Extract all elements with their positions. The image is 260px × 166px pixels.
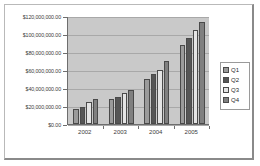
chart-frame: $0.00$20,000,000.00$40,000,000.00$60,000… [4,4,254,160]
bar-chart: $0.00$20,000,000.00$40,000,000.00$60,000… [5,5,255,161]
bar-group-2004 [139,17,175,124]
plot-area [67,17,209,125]
bar-Q4-2003 [128,90,134,124]
legend-label-Q3: Q3 [231,87,239,94]
bar-group-2005 [175,17,211,124]
y-tick-label: $120,000,000.00 [5,14,61,20]
bar-Q3-2004 [157,70,163,124]
legend-item-Q2[interactable]: Q2 [223,75,247,85]
legend-item-Q1[interactable]: Q1 [223,65,247,75]
bar-Q3-2005 [193,30,199,124]
x-tick-label-2005: 2005 [174,129,210,135]
y-tick-label: $0.00 [5,122,61,128]
bar-Q3-2003 [122,93,128,124]
y-tick-label: $80,000,000.00 [5,50,61,56]
bar-Q2-2004 [151,74,157,124]
bar-group-2002 [68,17,104,124]
bar-Q4-2004 [164,61,170,124]
bar-Q2-2003 [115,97,121,124]
legend-item-Q3[interactable]: Q3 [223,85,247,95]
x-axis: 2002200320042005 [67,126,209,140]
bar-Q4-2002 [93,99,99,124]
x-tick-label-2003: 2003 [103,129,139,135]
bar-Q1-2004 [144,79,150,124]
y-tick-label: $100,000,000.00 [5,32,61,38]
x-tick-label-2002: 2002 [67,129,103,135]
bar-Q1-2003 [109,99,115,124]
bar-Q3-2002 [86,102,92,125]
y-tick-label: $40,000,000.00 [5,86,61,92]
y-tick-label: $60,000,000.00 [5,68,61,74]
bar-Q1-2002 [73,109,79,124]
legend-swatch-Q2 [223,77,229,83]
bar-Q2-2002 [80,107,86,124]
bar-Q4-2005 [199,22,205,124]
x-tick-label-2004: 2004 [138,129,174,135]
y-tick-label: $20,000,000.00 [5,104,61,110]
legend-swatch-Q4 [223,97,229,103]
bar-group-2003 [104,17,140,124]
legend-swatch-Q1 [223,67,229,73]
bar-Q1-2005 [180,45,186,124]
x-tick-mark [209,126,210,129]
y-axis: $0.00$20,000,000.00$40,000,000.00$60,000… [5,5,65,137]
legend-item-Q4[interactable]: Q4 [223,95,247,105]
legend-swatch-Q3 [223,87,229,93]
legend-label-Q2: Q2 [231,77,239,84]
legend-label-Q1: Q1 [231,67,239,74]
chart-legend: Q1Q2Q3Q4 [220,62,250,110]
legend-label-Q4: Q4 [231,97,239,104]
bar-Q2-2005 [186,38,192,124]
